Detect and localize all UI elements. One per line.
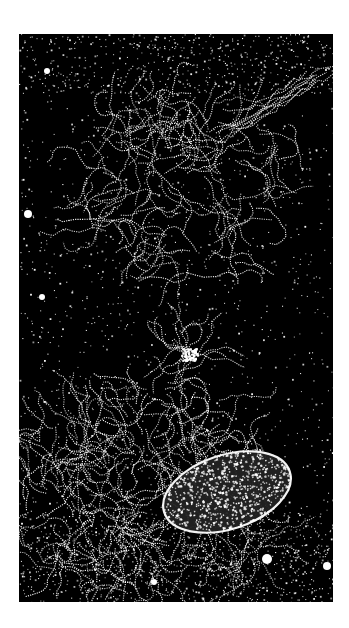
micrograph-image xyxy=(19,34,333,602)
page xyxy=(0,0,349,628)
micrograph-canvas xyxy=(19,34,333,602)
